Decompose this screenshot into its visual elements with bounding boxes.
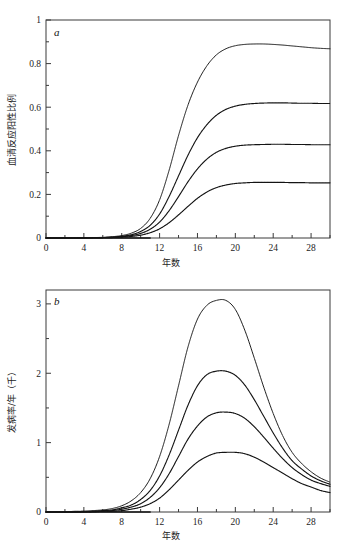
panel-a-x-axis-title: 年数 xyxy=(162,257,180,268)
panel-a-y-tick-label: 0.8 xyxy=(29,59,41,69)
panel-b-incidence: 04812162024280123 b 年数 发病率/年（千） xyxy=(0,272,342,545)
panel-b-x-tick-label: 4 xyxy=(81,517,86,527)
two-panel-epidemiology-figure: 048121620242800.20.40.60.81 a 年数 血清反应阳性比… xyxy=(0,0,342,545)
panel-b-x-tick-label: 8 xyxy=(119,517,124,527)
panel-a-x-tick-label: 20 xyxy=(231,243,241,253)
panel-b-y-tick-label: 1 xyxy=(36,438,41,448)
panel-b-y-tick-label: 3 xyxy=(36,299,41,309)
panel-a-x-tick-label: 16 xyxy=(193,243,203,253)
panel-a-y-tick-label: 0.6 xyxy=(29,103,41,113)
panel-a-x-tick-label: 0 xyxy=(44,243,49,253)
panel-a-y-tick-label: 0.2 xyxy=(29,190,41,200)
panel-a-x-tick-label: 8 xyxy=(119,243,124,253)
panel-b-x-tick-label: 12 xyxy=(155,517,165,527)
panel-a-y-tick-label: 1 xyxy=(36,15,41,25)
panel-b-x-axis-title: 年数 xyxy=(162,530,180,541)
panel-a-x-tick-label: 24 xyxy=(268,243,278,253)
panel-a-x-tick-label: 4 xyxy=(81,243,86,253)
panel-a-y-axis-title: 血清反应阳性比例 xyxy=(6,94,17,166)
panel-b-x-tick-label: 24 xyxy=(268,517,278,527)
panel-a-seroprevalence: 048121620242800.20.40.60.81 a 年数 血清反应阳性比… xyxy=(0,0,342,272)
panel-b-x-tick-label: 0 xyxy=(44,517,49,527)
panel-b-background xyxy=(0,272,342,545)
panel-a-y-tick-label: 0 xyxy=(36,233,41,243)
panel-b-y-axis-title: 发病率/年（千） xyxy=(6,367,17,433)
panel-a-letter: a xyxy=(54,26,60,38)
panel-b-plot: 04812162024280123 b 年数 发病率/年（千） xyxy=(0,272,342,545)
panel-a-plot: 048121620242800.20.40.60.81 a 年数 血清反应阳性比… xyxy=(0,0,342,272)
panel-a-x-tick-label: 28 xyxy=(306,243,316,253)
panel-b-x-tick-label: 28 xyxy=(306,517,316,527)
panel-b-letter: b xyxy=(54,295,60,307)
panel-b-x-tick-label: 20 xyxy=(231,517,241,527)
panel-a-x-tick-label: 12 xyxy=(155,243,165,253)
panel-b-x-tick-label: 16 xyxy=(193,517,203,527)
panel-b-y-tick-label: 2 xyxy=(36,369,41,379)
panel-b-y-tick-label: 0 xyxy=(36,507,41,517)
panel-a-background xyxy=(0,0,342,272)
panel-a-y-tick-label: 0.4 xyxy=(29,146,41,156)
